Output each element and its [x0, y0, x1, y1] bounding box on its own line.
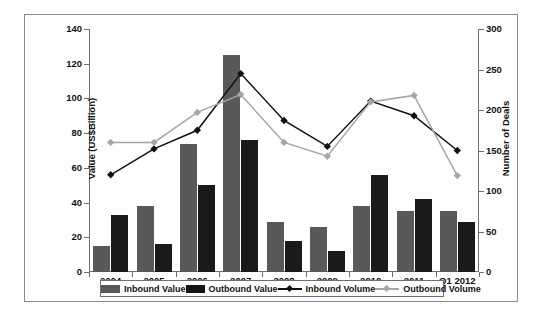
legend-line-marker-icon	[278, 285, 302, 293]
legend-label: Inbound Value	[124, 284, 186, 294]
right-axis-tick-label: 0	[486, 267, 491, 276]
left-axis-tick-label: 140	[66, 24, 82, 33]
right-axis-tick-label: 300	[486, 24, 502, 33]
marker-outbound-volume-Q12012	[454, 172, 461, 179]
right-axis-tick-label: 250	[486, 65, 502, 74]
left-axis-tick-label: 80	[71, 128, 82, 137]
legend-label: Inbound Volume	[306, 284, 376, 294]
line-series-group	[89, 29, 479, 272]
right-axis-tick	[479, 29, 484, 30]
right-axis-title: Number of Deals	[500, 79, 511, 199]
line-inbound-volume	[111, 74, 458, 175]
marker-outbound-volume-2004	[107, 139, 114, 146]
line-outbound-volume	[111, 95, 458, 176]
legend-item-outbound-value[interactable]: Outbound Value	[186, 284, 278, 294]
legend-item-outbound-volume[interactable]: Outbound Volume	[375, 284, 480, 294]
left-axis-tick-label: 120	[66, 59, 82, 68]
left-axis-tick-label: 40	[71, 198, 82, 207]
right-axis-tick	[479, 110, 484, 111]
legend-label: Outbound Value	[209, 284, 278, 294]
legend-label: Outbound Volume	[403, 284, 480, 294]
plot-area: 020406080100120140 050100150200250300 Va…	[89, 29, 479, 272]
legend-swatch-icon	[101, 285, 120, 293]
legend-item-inbound-volume[interactable]: Inbound Volume	[278, 284, 376, 294]
legend-item-inbound-value[interactable]: Inbound Value	[101, 284, 186, 294]
marker-inbound-volume-2005	[150, 145, 157, 152]
legend-swatch-icon	[186, 285, 205, 293]
left-axis-tick-label: 0	[77, 267, 82, 276]
left-axis-tick-label: 20	[71, 232, 82, 241]
right-axis-tick	[479, 191, 484, 192]
chart-legend: Inbound ValueOutbound ValueInbound Volum…	[100, 280, 444, 297]
right-axis-tick	[479, 151, 484, 152]
legend-line-marker-icon	[375, 285, 399, 293]
right-axis-tick	[479, 70, 484, 71]
marker-outbound-volume-2011	[410, 92, 417, 99]
left-axis-tick-label: 100	[66, 93, 82, 102]
right-axis-tick	[479, 232, 484, 233]
chart-frame: 020406080100120140 050100150200250300 Va…	[24, 14, 518, 302]
marker-inbound-volume-2004	[107, 171, 114, 178]
right-axis-tick-label: 50	[486, 227, 497, 236]
left-axis-tick-label: 60	[71, 163, 82, 172]
x-axis-tick	[479, 272, 480, 277]
